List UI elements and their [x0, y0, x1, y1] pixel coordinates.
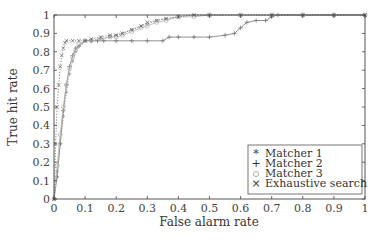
x-tick-label: 0.4	[170, 202, 188, 215]
y-tick-label: 0.9	[33, 27, 51, 40]
legend-item-exhaustive-search: × Exhaustive search	[251, 177, 367, 190]
x-tick-label: 0.1	[76, 202, 94, 215]
y-axis-label: True hit rate	[6, 68, 20, 145]
x-tick-label: 0.3	[139, 202, 157, 215]
y-tick-label: 0.3	[33, 138, 51, 151]
y-tick-label: 0.4	[33, 119, 51, 132]
x-tick-label: 0.7	[263, 202, 281, 215]
x-tick-label: 0.5	[201, 202, 219, 215]
y-tick-label: 0	[43, 193, 50, 206]
x-axis-label: False alarm rate	[159, 215, 258, 229]
x-tick-label: 0.6	[232, 202, 250, 215]
y-tick-label: 1	[43, 9, 50, 22]
legend: * Matcher 1 + Matcher 2 Matcher 3 × Exha…	[248, 145, 367, 194]
y-tick-label: 0.6	[33, 83, 51, 96]
y-tick-label: 0.2	[33, 156, 51, 169]
roc-chart: 00.10.20.30.40.50.60.70.80.9100.10.20.30…	[0, 0, 383, 240]
plus-marker-icon: +	[251, 157, 260, 170]
y-tick-label: 0.1	[33, 175, 51, 188]
y-tick-label: 0.7	[33, 64, 51, 77]
legend-label: Exhaustive search	[265, 177, 367, 190]
x-tick-label: 0	[51, 202, 58, 215]
x-tick-label: 1	[362, 202, 369, 215]
x-tick-label: 0.2	[107, 202, 125, 215]
x-tick-label: 0.8	[294, 202, 312, 215]
y-tick-label: 0.8	[33, 46, 51, 59]
x-tick-label: 0.9	[325, 202, 343, 215]
y-tick-label: 0.5	[33, 101, 51, 114]
x-marker-icon: ×	[251, 177, 260, 190]
